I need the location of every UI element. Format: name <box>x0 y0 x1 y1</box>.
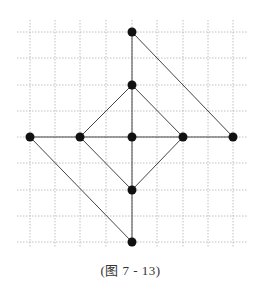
edge-top-right-far <box>132 32 233 137</box>
point-left-far <box>26 133 35 142</box>
edge-upper-right <box>132 85 183 137</box>
edge-left-far-bottom <box>30 137 132 242</box>
point-lower <box>128 186 137 195</box>
point-bottom <box>128 238 137 247</box>
edge-right-lower <box>132 137 183 190</box>
point-top <box>128 28 137 37</box>
figure-caption: (图 7 - 13) <box>0 260 261 279</box>
geometry-figure <box>0 0 261 260</box>
point-upper <box>128 81 137 90</box>
point-right <box>179 133 188 142</box>
point-center <box>128 133 137 142</box>
point-right-far <box>229 133 238 142</box>
point-left <box>76 133 85 142</box>
